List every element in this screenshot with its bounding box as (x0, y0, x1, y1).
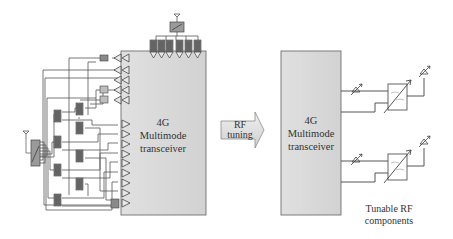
tunable-matching-icon-lower (351, 154, 362, 165)
transceiver-label-line2: Multimode (140, 130, 187, 141)
tunable-antenna-icon-lower (419, 136, 430, 147)
coupler-block-2 (100, 86, 108, 93)
arrow-label-line2: tuning (227, 129, 253, 140)
antenna-icon-left (23, 131, 29, 139)
coupler-block-3 (100, 96, 108, 103)
rf-tuning-diagram: 4G Multimode transceiver (0, 0, 453, 239)
tunable-matching-icon-upper (351, 84, 362, 95)
transceiver-label-line1: 4G (157, 117, 170, 128)
caption-line1: Tunable RF (365, 203, 413, 214)
rx-amplifiers (122, 120, 130, 207)
caption-line2: components (365, 215, 413, 226)
tunable-chain-lower (341, 148, 424, 183)
antenna-switch-left (31, 140, 40, 166)
tunable-chain-upper (341, 78, 424, 113)
transceiver-label-line2: Multimode (288, 128, 335, 139)
legacy-frontend: 4G Multimode transceiver (23, 14, 206, 215)
transceiver-label-line3: transceiver (288, 141, 335, 152)
rf-tuning-arrow: RF tuning (221, 112, 264, 148)
coupler-block-1 (100, 55, 108, 61)
tunable-frontend: 4G Multimode transceiver Tunable RF (281, 51, 430, 226)
antenna-icon-top (174, 14, 180, 22)
transceiver-label-line3: transceiver (140, 143, 187, 154)
side-filters (54, 103, 119, 208)
tunable-antenna-icon-upper (419, 66, 430, 77)
transceiver-label-line1: 4G (305, 115, 318, 126)
